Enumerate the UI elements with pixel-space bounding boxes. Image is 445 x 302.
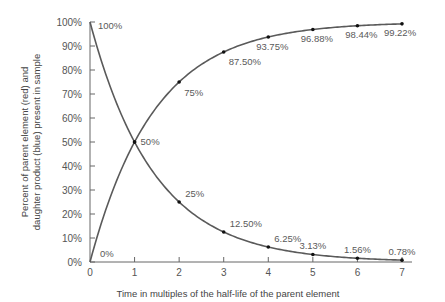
x-tick-label: 5 xyxy=(310,267,316,278)
parent-data-point xyxy=(400,258,404,262)
parent-value-label: 6.25% xyxy=(274,233,301,244)
parent-data-point xyxy=(266,245,270,249)
y-tick-label: 40% xyxy=(62,161,82,172)
parent-value-label: 50% xyxy=(141,136,161,147)
daughter-data-point xyxy=(400,22,404,26)
y-axis-ticks: 0%10%20%30%40%50%60%70%80%90%100% xyxy=(56,17,95,268)
data-markers xyxy=(133,22,404,262)
daughter-value-label: 98.44% xyxy=(345,29,378,40)
x-tick-label: 6 xyxy=(355,267,361,278)
half-life-chart: Percent of parent element (red) and daug… xyxy=(0,0,445,302)
x-tick-label: 2 xyxy=(176,267,182,278)
x-axis-title: Time in multiples of the half-life of th… xyxy=(116,288,339,299)
daughter-data-point xyxy=(266,35,270,39)
parent-value-label: 100% xyxy=(98,20,123,31)
parent-data-point xyxy=(356,256,360,260)
data-labels: 100%50%25%12.50%6.25%3.13%1.56%0.78%0%75… xyxy=(98,20,417,259)
y-tick-label: 10% xyxy=(62,233,82,244)
daughter-data-point xyxy=(222,50,226,54)
x-tick-label: 7 xyxy=(399,267,405,278)
parent-value-label: 25% xyxy=(185,188,205,199)
y-tick-label: 100% xyxy=(56,17,82,28)
daughter-value-label: 96.88% xyxy=(301,33,334,44)
daughter-value-label: 99.22% xyxy=(384,27,417,38)
parent-value-label: 3.13% xyxy=(299,240,326,251)
daughter-data-point xyxy=(133,140,137,144)
y-tick-label: 30% xyxy=(62,185,82,196)
x-tick-label: 4 xyxy=(266,267,272,278)
y-tick-label: 90% xyxy=(62,41,82,52)
daughter-value-label: 93.75% xyxy=(256,41,289,52)
daughter-value-label: 0% xyxy=(100,248,114,259)
daughter-data-point xyxy=(311,28,315,32)
y-tick-label: 80% xyxy=(62,65,82,76)
y-tick-label: 50% xyxy=(62,137,82,148)
y-tick-label: 60% xyxy=(62,113,82,124)
y-axis-title-line-2: daughter product (blue) present in sampl… xyxy=(31,54,42,230)
parent-value-label: 0.78% xyxy=(389,246,416,257)
parent-value-label: 1.56% xyxy=(344,244,371,255)
daughter-data-point xyxy=(177,80,181,84)
x-axis-ticks: 01234567 xyxy=(87,257,405,278)
x-tick-label: 3 xyxy=(221,267,227,278)
parent-data-point xyxy=(177,200,181,204)
y-axis-title: Percent of parent element (red) and daug… xyxy=(19,54,42,230)
parent-value-label: 12.50% xyxy=(230,218,263,229)
daughter-value-label: 87.50% xyxy=(229,56,262,67)
x-tick-label: 0 xyxy=(87,267,93,278)
y-axis-title-line-1: Percent of parent element (red) and xyxy=(19,67,30,218)
y-tick-label: 0% xyxy=(68,257,83,268)
parent-data-point xyxy=(311,253,315,257)
x-tick-label: 1 xyxy=(132,267,138,278)
y-tick-label: 70% xyxy=(62,89,82,100)
daughter-value-label: 75% xyxy=(184,87,204,98)
parent-data-point xyxy=(222,230,226,234)
y-tick-label: 20% xyxy=(62,209,82,220)
daughter-data-point xyxy=(356,24,360,28)
